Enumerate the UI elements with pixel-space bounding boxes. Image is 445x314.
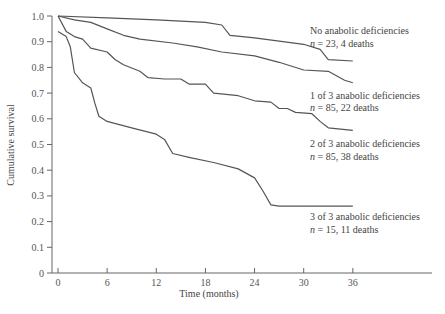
y-tick-label: 0.5 <box>32 139 45 150</box>
survival-curve-2 <box>58 16 353 130</box>
y-tick-label: 0.1 <box>32 242 45 253</box>
y-tick-label: 0.3 <box>32 190 45 201</box>
y-tick-label: 0.7 <box>32 88 45 99</box>
x-tick-label: 12 <box>151 277 161 288</box>
x-ticks: 061218243036 <box>56 268 358 288</box>
legend-series-3: 3 of 3 anabolic deficiencies n = 15, 11 … <box>310 211 420 235</box>
legend-label: 2 of 3 anabolic deficiencies <box>310 138 420 149</box>
x-tick-label: 6 <box>105 277 110 288</box>
legend-label: 1 of 3 anabolic deficiencies <box>310 90 420 101</box>
legend-annotation: n = 85, 38 deaths <box>310 151 379 162</box>
survival-curve-3 <box>58 31 353 206</box>
legend-label: No anabolic deficiencies <box>310 25 409 36</box>
x-tick-label: 24 <box>250 277 260 288</box>
y-tick-label: 0 <box>39 268 44 279</box>
legend-series-1: 1 of 3 anabolic deficiencies n = 85, 22 … <box>310 90 420 113</box>
x-tick-label: 18 <box>200 277 210 288</box>
y-ticks: 00.10.20.30.40.50.60.70.80.91.0 <box>32 11 53 279</box>
survival-chart: 00.10.20.30.40.50.60.70.80.91.0 06121824… <box>0 0 445 314</box>
legend-annotation: n = 15, 11 deaths <box>310 224 378 235</box>
x-axis-title: Time (months) <box>179 288 238 300</box>
y-tick-label: 0.8 <box>32 62 45 73</box>
legend-annotation: n = 85, 22 deaths <box>310 102 379 113</box>
y-tick-label: 1.0 <box>32 11 45 22</box>
y-tick-label: 0.4 <box>32 165 45 176</box>
survival-curve-0 <box>58 16 353 61</box>
y-tick-label: 0.2 <box>32 216 45 227</box>
x-tick-label: 0 <box>56 277 61 288</box>
y-tick-label: 0.6 <box>32 113 45 124</box>
x-tick-label: 30 <box>299 277 309 288</box>
legend-series-0: No anabolic deficiencies n = 23, 4 death… <box>310 25 409 49</box>
axes: 00.10.20.30.40.50.60.70.80.91.0 06121824… <box>32 11 433 289</box>
legend-series-2: 2 of 3 anabolic deficiencies n = 85, 38 … <box>310 138 420 162</box>
x-tick-label: 36 <box>348 277 358 288</box>
legend-annotation: n = 23, 4 deaths <box>310 38 374 49</box>
y-axis-title: Cumulative survival <box>5 104 16 186</box>
survival-curves <box>58 16 353 206</box>
survival-curve-1 <box>58 16 353 83</box>
legend-label: 3 of 3 anabolic deficiencies <box>310 211 420 222</box>
y-tick-label: 0.9 <box>32 36 45 47</box>
